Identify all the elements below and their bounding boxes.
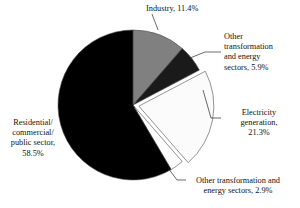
pie-slice-group — [58, 30, 214, 180]
slice-label-electricity-generation: Electricity generation, 21.3% — [222, 108, 296, 139]
slice-label-other-transformation-energy-2-9: Other transformation and energy sectors,… — [176, 176, 300, 196]
leader-line-other-transformation-5-9 — [190, 52, 221, 58]
leader-line-industry — [152, 14, 158, 30]
slice-label-other-transformation-energy-5-9: Other transformation and energy sectors,… — [224, 32, 298, 73]
slice-label-industry: Industry, 11.4% — [146, 4, 256, 14]
pie-chart-figure: Industry, 11.4% Other transformation and… — [0, 0, 300, 208]
slice-label-residential-commercial-public: Residential/ commercial/ public sector, … — [2, 118, 64, 159]
